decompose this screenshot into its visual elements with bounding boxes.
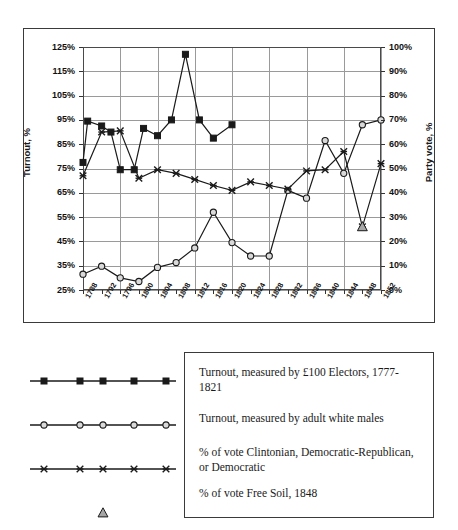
plot-area bbox=[83, 47, 381, 290]
data-point-x bbox=[266, 182, 273, 189]
axis-tick-mark bbox=[381, 120, 385, 121]
axis-tick-mark bbox=[344, 290, 345, 294]
y-axis-right-tick-label: 90% bbox=[389, 67, 407, 76]
axis-tick-mark bbox=[381, 290, 382, 294]
axis-tick-mark bbox=[381, 96, 385, 97]
data-point-square bbox=[196, 117, 202, 123]
data-point-square bbox=[131, 378, 137, 384]
data-point-circle bbox=[154, 264, 160, 270]
axis-tick-mark bbox=[269, 290, 270, 294]
data-point-x bbox=[154, 166, 161, 173]
axis-tick-mark bbox=[232, 290, 233, 294]
data-point-circle bbox=[100, 422, 106, 428]
data-point-x bbox=[136, 175, 143, 182]
series-layer bbox=[83, 47, 381, 290]
y-axis-right-tick-label: 70% bbox=[389, 115, 407, 124]
axis-tick-mark bbox=[362, 290, 363, 294]
data-point-circle bbox=[80, 271, 86, 277]
data-point-triangle bbox=[98, 508, 108, 517]
y-axis-left-tick-label: 75% bbox=[57, 164, 75, 173]
y-axis-left-tick-label: 45% bbox=[57, 237, 75, 246]
axis-tick-mark bbox=[288, 290, 289, 294]
data-point-x bbox=[210, 182, 217, 189]
legend-sample-lines bbox=[22, 356, 184, 516]
axis-tick-mark bbox=[139, 290, 140, 294]
axis-tick-mark bbox=[381, 144, 385, 145]
axis-tick-mark bbox=[176, 290, 177, 294]
data-point-circle bbox=[266, 253, 272, 259]
data-point-x bbox=[131, 466, 138, 473]
y-axis-right-tick-label: 10% bbox=[389, 261, 407, 270]
y-axis-right-tick-label: 80% bbox=[389, 91, 407, 100]
axis-tick-mark bbox=[79, 217, 83, 218]
axis-tick-mark bbox=[79, 169, 83, 170]
legend-sample-triangle bbox=[22, 506, 184, 520]
data-point-triangle bbox=[357, 222, 367, 231]
axis-tick-mark bbox=[79, 266, 83, 267]
axis-tick-mark bbox=[213, 290, 214, 294]
axis-tick-mark bbox=[195, 290, 196, 294]
data-point-x bbox=[100, 466, 107, 473]
data-point-circle bbox=[131, 422, 137, 428]
data-point-square bbox=[117, 167, 123, 173]
y-axis-left-tick-label: 65% bbox=[57, 188, 75, 197]
y-axis-left-tick-label: 35% bbox=[57, 261, 75, 270]
data-point-square bbox=[155, 133, 161, 139]
y-axis-left-tick-label: 85% bbox=[57, 140, 75, 149]
data-point-square bbox=[229, 122, 235, 128]
axis-tick-mark bbox=[307, 290, 308, 294]
data-point-circle bbox=[136, 278, 142, 284]
data-point-circle bbox=[229, 240, 235, 246]
legend-entry-label: Turnout, measured by adult white males bbox=[199, 411, 421, 426]
axis-tick-mark bbox=[79, 71, 83, 72]
data-point-square bbox=[168, 117, 174, 123]
data-point-x bbox=[247, 179, 254, 186]
legend-sample-square bbox=[22, 374, 184, 388]
y-axis-left-tick-label: 125% bbox=[52, 43, 75, 52]
axis-tick-mark bbox=[251, 290, 252, 294]
y-axis-right-tick-label: 30% bbox=[389, 213, 407, 222]
y-axis-left-title: Turnout, % bbox=[21, 128, 32, 177]
data-point-circle bbox=[41, 422, 47, 428]
y-axis-right-tick-label: 20% bbox=[389, 237, 407, 246]
axis-tick-mark bbox=[102, 290, 103, 294]
data-point-circle bbox=[359, 122, 365, 128]
axis-tick-mark bbox=[381, 71, 385, 72]
data-point-x bbox=[77, 466, 84, 473]
y-axis-right-tick-label: 100% bbox=[389, 43, 412, 52]
axis-tick-mark bbox=[83, 290, 84, 294]
axis-tick-mark bbox=[79, 120, 83, 121]
data-point-x bbox=[229, 187, 236, 194]
axis-tick-mark bbox=[79, 241, 83, 242]
data-point-x bbox=[322, 166, 329, 173]
y-axis-left-tick-label: 105% bbox=[52, 91, 75, 100]
axis-tick-mark bbox=[79, 144, 83, 145]
series-line-square bbox=[83, 54, 232, 169]
data-point-circle bbox=[248, 253, 254, 259]
data-point-circle bbox=[173, 259, 179, 265]
data-point-circle bbox=[99, 263, 105, 269]
data-point-circle bbox=[163, 422, 169, 428]
data-point-square bbox=[77, 378, 83, 384]
axis-tick-mark bbox=[79, 96, 83, 97]
series-line-circle bbox=[83, 120, 381, 282]
data-point-x bbox=[303, 168, 310, 175]
y-axis-left-tick-label: 25% bbox=[57, 286, 75, 295]
legend-sample-circle bbox=[22, 418, 184, 432]
y-axis-right-tick-label: 60% bbox=[389, 140, 407, 149]
axis-tick-mark bbox=[325, 290, 326, 294]
data-point-square bbox=[100, 378, 106, 384]
data-point-square bbox=[80, 159, 86, 165]
legend-entry-label: Turnout, measured by £100 Electors, 1777… bbox=[199, 365, 421, 395]
legend-text-box: Turnout, measured by £100 Electors, 1777… bbox=[184, 352, 434, 518]
data-point-x bbox=[191, 176, 198, 183]
axis-tick-mark bbox=[158, 290, 159, 294]
axis-tick-mark bbox=[381, 169, 385, 170]
legend-sample-x bbox=[22, 462, 184, 476]
y-axis-left-tick-label: 95% bbox=[57, 115, 75, 124]
data-point-x bbox=[163, 466, 170, 473]
axis-tick-mark bbox=[79, 193, 83, 194]
data-point-square bbox=[85, 118, 91, 124]
data-point-square bbox=[141, 125, 147, 131]
series-line-x bbox=[83, 131, 381, 227]
